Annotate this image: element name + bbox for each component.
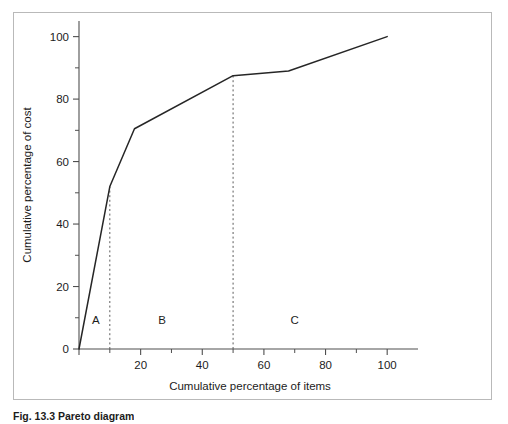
x-axis-ticks: 20406080100: [79, 349, 397, 371]
pareto-chart: 020406080100 20406080100 ABC Cumulative …: [14, 13, 491, 399]
y-tick-label: 20: [56, 281, 69, 293]
chart-frame: 020406080100 20406080100 ABC Cumulative …: [13, 12, 492, 400]
x-tick-label: 60: [258, 359, 271, 371]
y-tick-label: 0: [63, 343, 69, 355]
region-label-b: B: [158, 314, 166, 326]
region-label-c: C: [291, 314, 299, 326]
x-tick-label: 20: [134, 359, 147, 371]
y-tick-label: 40: [56, 218, 69, 230]
x-axis-title: Cumulative percentage of items: [169, 380, 331, 392]
x-tick-label: 100: [378, 359, 397, 371]
y-axis-ticks: 020406080100: [50, 31, 79, 355]
x-tick-label: 40: [196, 359, 209, 371]
y-tick-label: 100: [50, 31, 69, 43]
region-annotations: ABC: [92, 314, 299, 326]
figure-container: 020406080100 20406080100 ABC Cumulative …: [0, 0, 508, 424]
y-axis-title: Cumulative percentage of cost: [21, 107, 33, 263]
region-dividers: [110, 76, 233, 349]
figure-caption: Fig. 13.3 Pareto diagram: [13, 408, 134, 424]
y-tick-label: 80: [56, 93, 69, 105]
x-tick-label: 80: [319, 359, 332, 371]
y-tick-label: 60: [56, 156, 69, 168]
region-label-a: A: [92, 314, 100, 326]
